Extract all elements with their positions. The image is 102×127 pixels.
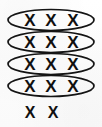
group-row-3: X X X bbox=[8, 54, 94, 75]
group-row-4: X X X bbox=[8, 76, 94, 97]
group-row-1: X X X bbox=[8, 10, 94, 31]
group-ellipse-4 bbox=[8, 76, 94, 97]
x-mark: X bbox=[45, 33, 57, 52]
x-mark: X bbox=[24, 55, 36, 74]
x-mark: X bbox=[67, 11, 79, 30]
group-ellipse-3 bbox=[8, 54, 94, 75]
x-mark: X bbox=[67, 77, 79, 96]
group-row-2: X X X bbox=[8, 32, 94, 53]
x-mark: X bbox=[67, 33, 79, 52]
x-mark: X bbox=[45, 11, 57, 30]
diagram-canvas: X X X X X X X X X X X X X X bbox=[0, 0, 102, 127]
x-mark: X bbox=[48, 104, 59, 121]
x-mark: X bbox=[45, 77, 57, 96]
x-mark: X bbox=[45, 55, 57, 74]
x-mark: X bbox=[24, 11, 36, 30]
group-ellipse-1 bbox=[8, 10, 94, 31]
x-mark: X bbox=[24, 77, 36, 96]
remainder-row: X X bbox=[25, 104, 59, 121]
grouped-marks-figure: X X X X X X X X X X X X X X bbox=[0, 0, 102, 127]
x-mark: X bbox=[67, 55, 79, 74]
x-mark: X bbox=[25, 104, 36, 121]
x-mark: X bbox=[24, 33, 36, 52]
group-ellipse-2 bbox=[8, 32, 94, 53]
